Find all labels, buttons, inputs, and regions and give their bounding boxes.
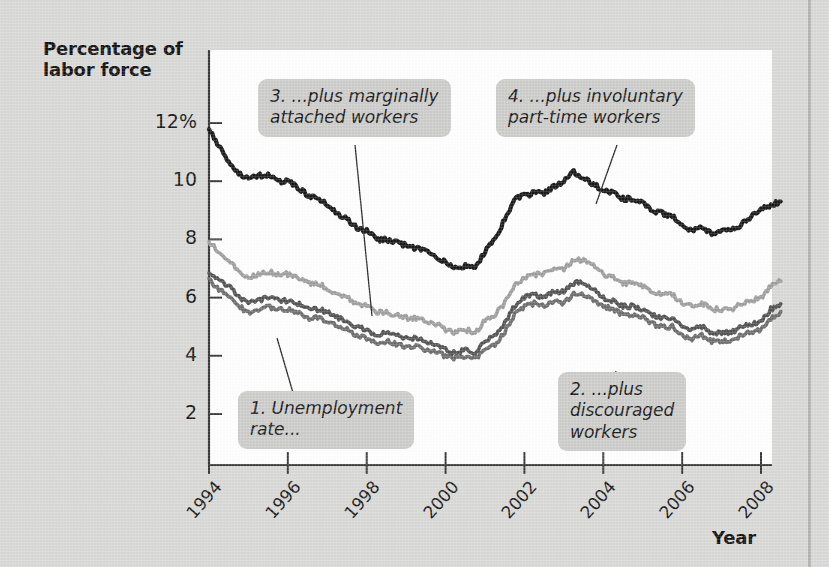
y-tick-label: 6	[127, 285, 197, 307]
page-right-rule	[808, 0, 811, 567]
y-axis-title: Percentage of labor force	[43, 38, 193, 80]
callout-involuntary-part-time-workers: 4. ...plus involuntary part-time workers	[496, 79, 695, 137]
x-axis-title: Year	[712, 527, 756, 548]
leader-line-involuntary-part-time	[596, 145, 617, 204]
callout-unemployment-rate: 1. Unemployment rate...	[238, 391, 414, 449]
y-tick-label: 4	[127, 343, 197, 365]
y-tick-label: 8	[127, 226, 197, 248]
callout-discouraged-workers: 2. ...plus discouraged workers	[558, 372, 686, 451]
series-line-4	[209, 129, 781, 268]
series-line-3	[209, 242, 781, 334]
series-line-1	[209, 279, 781, 360]
callout-marginally-attached-workers: 3. ...plus marginally attached workers	[258, 79, 451, 137]
y-tick-label: 2	[127, 401, 197, 423]
y-tick-label: 10	[127, 168, 197, 190]
y-tick-label: 12%	[127, 110, 197, 132]
chart-figure: Percentage of labor force Year 12%108642…	[0, 0, 829, 567]
